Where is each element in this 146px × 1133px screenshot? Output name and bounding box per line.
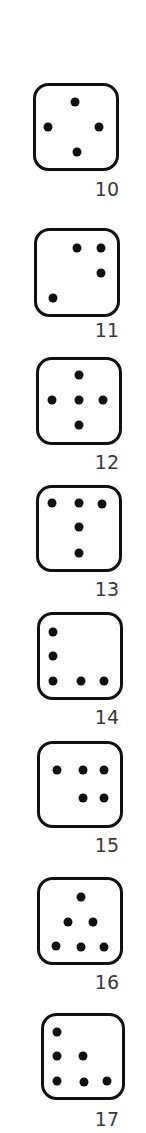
pip-dot-icon bbox=[80, 1078, 89, 1087]
pip-dot-icon bbox=[103, 1077, 112, 1086]
die-face-icon bbox=[0, 0, 146, 1133]
pip-dot-icon bbox=[53, 1077, 62, 1086]
pip-dot-icon bbox=[53, 1052, 62, 1061]
pip-dot-icon bbox=[53, 1028, 62, 1037]
die-number-label: 17 bbox=[95, 1110, 119, 1129]
pip-dot-icon bbox=[79, 1052, 88, 1061]
